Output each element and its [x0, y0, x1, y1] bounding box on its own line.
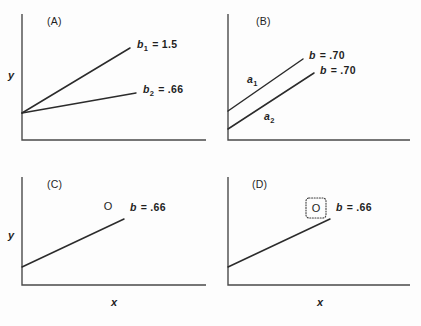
panel-d-line-b [228, 219, 330, 267]
panel-c-plot: y x (C) O b= .66 [0, 163, 211, 326]
panel-c-line-b [22, 219, 124, 267]
panel-a-label-b2: b2= .66 [143, 83, 183, 98]
panel-b-axes [228, 14, 410, 140]
panel-d-axes [228, 177, 410, 285]
panel-c: y x (C) O b= .66 [0, 163, 211, 326]
panel-c-axes [22, 177, 206, 285]
panel-b-label-a1: a1 [247, 73, 258, 88]
panel-a-label-b2-eq: = .66 [158, 83, 183, 95]
panel-d-label-b: b= .66 [336, 201, 372, 213]
panel-d-x-axis-label: x [316, 296, 324, 308]
panel-b-label-b-upper-var: b [309, 49, 316, 61]
panel-a-label-b1: b1= 1.5 [137, 38, 177, 53]
panel-a-plot: y (A) b1= 1.5 b2= .66 [0, 0, 211, 163]
panel-b-line-a1 [228, 59, 303, 111]
panel-b-label-b-lower-var: b [320, 64, 327, 76]
panel-c-y-axis-label: y [7, 229, 15, 241]
panel-b-label-b-lower-eq: = .70 [331, 64, 356, 76]
panel-c-label-b-var: b [130, 201, 137, 213]
panel-a-y-axis-label: y [7, 69, 15, 81]
panel-b-label-b-upper-eq: = .70 [320, 49, 345, 61]
panel-c-x-axis-label: x [110, 296, 118, 308]
figure-panel-grid: y (A) b1= 1.5 b2= .66 (B) b= .70 b= .70 … [0, 0, 421, 326]
panel-d-label-b-var: b [336, 201, 343, 213]
panel-c-label-b-eq: = .66 [141, 201, 166, 213]
panel-b: (B) b= .70 b= .70 a1 a2 [210, 0, 421, 163]
panel-d-point-o-marker: O [312, 202, 321, 214]
panel-a-label-b1-sub: 1 [144, 44, 148, 53]
panel-b-label-b-lower: b= .70 [320, 64, 356, 76]
panel-d-label-b-eq: = .66 [347, 201, 372, 213]
panel-a-label: (A) [47, 15, 62, 27]
panel-b-label-a2: a2 [264, 110, 275, 125]
panel-b-label: (B) [256, 15, 271, 27]
panel-d: x (D) O b= .66 [210, 163, 421, 326]
panel-d-plot: x (D) O b= .66 [210, 163, 421, 326]
panel-c-point-o-marker: O [104, 200, 113, 212]
panel-b-label-a2-sub: 2 [270, 116, 274, 125]
panel-c-label-b: b= .66 [130, 201, 166, 213]
panel-c-label: (C) [47, 178, 62, 190]
panel-b-plot: (B) b= .70 b= .70 a1 a2 [210, 0, 421, 163]
panel-d-label: (D) [252, 178, 267, 190]
panel-a-label-b2-sub: 2 [150, 89, 154, 98]
panel-a-label-b1-eq: = 1.5 [152, 38, 177, 50]
panel-a-axes [22, 14, 206, 140]
panel-b-label-a1-sub: 1 [253, 79, 257, 88]
panel-b-label-b-upper: b= .70 [309, 49, 345, 61]
panel-a: y (A) b1= 1.5 b2= .66 [0, 0, 211, 163]
